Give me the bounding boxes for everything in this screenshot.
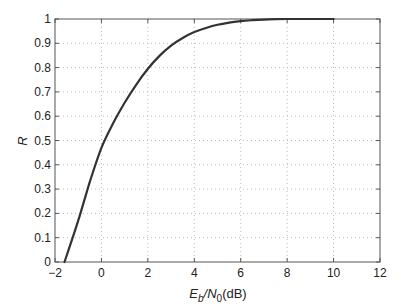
y-tick-label: 0.3 — [34, 182, 51, 196]
y-tick-label: 0.9 — [34, 36, 51, 50]
x-tick-label: 6 — [237, 266, 244, 280]
x-tick-label: 4 — [191, 266, 198, 280]
y-tick-label: 0.7 — [34, 85, 51, 99]
y-tick-label: 0.2 — [34, 206, 51, 220]
y-tick-label: 0 — [44, 255, 51, 269]
y-tick-label: 0.6 — [34, 109, 51, 123]
y-tick-label: 0.8 — [34, 61, 51, 75]
y-axis-label: R — [15, 136, 30, 145]
line-chart: −2024681012 00.10.20.30.40.50.60.70.80.9… — [0, 0, 406, 307]
y-tick-label: 0.1 — [34, 231, 51, 245]
x-axis-label: Eb/N0(dB) — [189, 286, 246, 304]
y-tick-label: 1 — [44, 12, 51, 26]
y-tick-label: 0.5 — [34, 134, 51, 148]
x-tick-labels: −2024681012 — [48, 266, 387, 280]
x-tick-label: 0 — [98, 266, 105, 280]
x-tick-label: 8 — [284, 266, 291, 280]
y-tick-labels: 00.10.20.30.40.50.60.70.80.91 — [34, 12, 51, 269]
x-tick-label: 10 — [327, 266, 341, 280]
x-tick-label: 12 — [373, 266, 387, 280]
y-tick-label: 0.4 — [34, 158, 51, 172]
x-tick-label: 2 — [145, 266, 152, 280]
